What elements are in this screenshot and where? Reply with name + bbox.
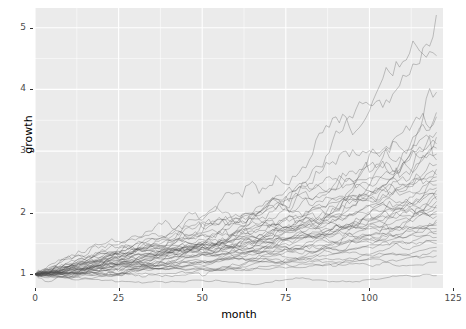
- x-tick-label: 100: [349, 293, 389, 303]
- y-tick-label: 4: [8, 83, 26, 93]
- y-tick-mark: [30, 89, 33, 90]
- x-tick-mark: [35, 288, 36, 291]
- plot-panel: [35, 8, 443, 288]
- y-tick-mark: [30, 213, 33, 214]
- y-tick-label: 2: [8, 207, 26, 217]
- plot-canvas: [35, 8, 443, 288]
- x-tick-mark: [369, 288, 370, 291]
- x-tick-mark: [119, 288, 120, 291]
- x-tick-mark: [202, 288, 203, 291]
- y-tick-mark: [30, 28, 33, 29]
- series-line: [35, 209, 436, 276]
- x-axis-label: month: [35, 308, 443, 321]
- x-tick-mark: [453, 288, 454, 291]
- x-tick-label: 0: [15, 293, 55, 303]
- x-tick-mark: [286, 288, 287, 291]
- x-tick-label: 50: [182, 293, 222, 303]
- x-tick-label: 125: [433, 293, 466, 303]
- y-axis-label: growth: [22, 105, 35, 165]
- x-tick-label: 25: [99, 293, 139, 303]
- series-line: [35, 89, 436, 277]
- series-lines: [35, 15, 436, 284]
- x-tick-label: 75: [266, 293, 306, 303]
- y-tick-label: 1: [8, 268, 26, 278]
- series-line: [35, 135, 436, 274]
- y-tick-label: 5: [8, 22, 26, 32]
- y-tick-mark: [30, 274, 33, 275]
